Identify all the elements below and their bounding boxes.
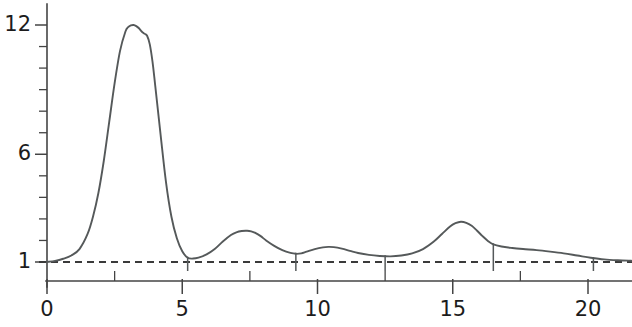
axes-group (46, 4, 632, 287)
plot-area (0, 0, 632, 327)
x-axis-label-0: 0 (17, 299, 77, 320)
x-axis-label-5: 5 (152, 299, 212, 320)
y-axis-label-1: 1 (18, 251, 31, 272)
y-axis-label-12: 12 (4, 14, 31, 35)
y-axis-label-6: 6 (18, 143, 31, 164)
x-axis-label-20: 20 (558, 299, 618, 320)
data-curve-signal (47, 25, 631, 262)
x-axis-label-15: 15 (423, 299, 483, 320)
x-axis-label-10: 10 (288, 299, 348, 320)
chart-container: 161205101520 (0, 0, 632, 327)
